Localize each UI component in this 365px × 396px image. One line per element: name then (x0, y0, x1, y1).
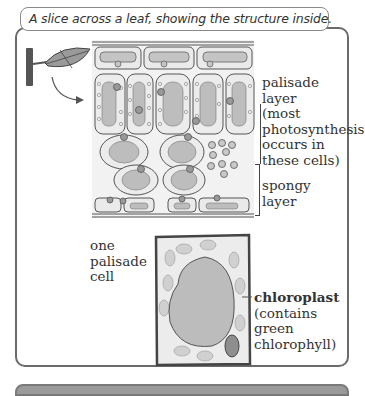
label-line: layer (262, 194, 311, 210)
spongy-bracket (255, 164, 260, 216)
label-line: occurs in (262, 137, 365, 153)
label-line: layer (262, 91, 365, 107)
label-spongy-layer: spongy layer (262, 178, 311, 209)
label-line: palisade (90, 254, 147, 270)
label-palisade-layer: palisade layer (most photosynthesis occu… (262, 75, 365, 168)
label-line: one (90, 238, 147, 254)
arrow-icon (52, 77, 84, 104)
label-chloroplast-title: chloroplast (254, 290, 339, 306)
palisade-cell-enlarged (156, 235, 252, 365)
label-line: cell (90, 269, 147, 285)
label-line: these cells) (262, 153, 365, 169)
label-line: green (254, 321, 339, 337)
label-line: spongy (262, 178, 311, 194)
next-panel-edge (15, 384, 349, 396)
palisade-bracket (257, 104, 261, 164)
label-line: photosynthesis (262, 122, 365, 138)
label-line: (most (262, 106, 365, 122)
label-one-palisade-cell: one palisade cell (90, 238, 147, 285)
label-chloroplast: chloroplast (contains green chlorophyll) (254, 290, 339, 352)
label-line: chlorophyll) (254, 337, 339, 353)
leaf-icon (26, 48, 90, 86)
label-line: palisade (262, 75, 365, 91)
cross-section (92, 40, 254, 218)
label-line: (contains (254, 306, 339, 322)
